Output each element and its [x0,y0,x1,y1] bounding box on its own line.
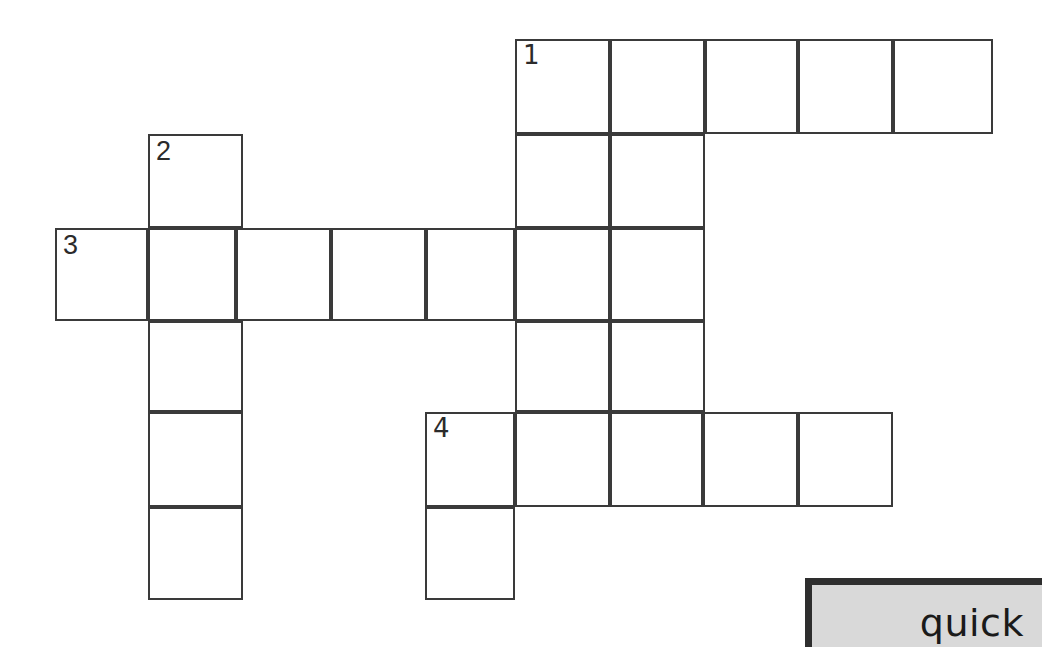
crossword-cell[interactable] [705,39,798,134]
hint-word-label: quick [920,601,1024,645]
crossword-cell[interactable]: 3 [55,228,148,321]
crossword-cell[interactable] [703,412,798,507]
crossword-grid: 1234 [0,0,1042,647]
cell-clue-number: 1 [523,42,540,69]
crossword-cell[interactable] [236,228,331,321]
crossword-cell[interactable]: 1 [515,39,610,134]
crossword-cell[interactable] [515,134,610,228]
crossword-cell[interactable] [426,228,515,321]
crossword-cell[interactable] [148,507,243,600]
crossword-cell[interactable]: 2 [148,134,243,228]
crossword-cell[interactable] [610,228,705,321]
crossword-cell[interactable] [798,412,893,507]
crossword-cell[interactable] [425,507,515,600]
crossword-cell[interactable] [893,39,993,134]
hint-panel: quick [805,578,1042,647]
cell-clue-number: 3 [63,231,78,259]
crossword-cell[interactable] [331,228,426,321]
crossword-cell[interactable] [610,39,705,134]
crossword-cell[interactable] [610,412,703,507]
crossword-cell[interactable] [148,228,236,321]
cell-clue-number: 4 [433,415,450,442]
cell-clue-number: 2 [156,137,171,165]
crossword-cell[interactable] [148,412,243,507]
crossword-cell[interactable] [515,321,610,412]
crossword-cell[interactable] [515,412,610,507]
crossword-cell[interactable] [798,39,893,134]
crossword-cell[interactable]: 4 [425,412,515,507]
crossword-cell[interactable] [515,228,610,321]
crossword-cell[interactable] [148,321,243,412]
crossword-cell[interactable] [610,134,705,228]
crossword-cell[interactable] [610,321,705,412]
